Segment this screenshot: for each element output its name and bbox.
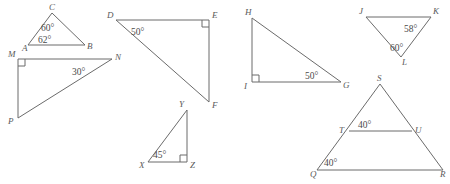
right-angle-mark-m — [18, 59, 25, 66]
vertex-label-g: G — [343, 80, 350, 90]
figure-triangle-hig: H I G 50° — [243, 7, 350, 91]
vertex-label-q: Q — [310, 169, 317, 179]
figure-triangle-jkl: J K L 58° 60° — [359, 6, 440, 67]
figure-triangle-qrs: S T U Q R 40° 40° — [310, 73, 446, 179]
vertex-label-m: M — [7, 49, 16, 59]
vertex-label-i: I — [243, 81, 248, 91]
angle-label-jkl-l: 60° — [390, 43, 404, 53]
vertex-label-b: B — [87, 41, 93, 51]
figures-canvas: A B C 60° 62° M N P 30° D E F 50° — [0, 0, 450, 184]
vertex-label-n: N — [114, 52, 122, 62]
vertex-label-s: S — [377, 73, 382, 83]
triangle-hig-outline — [252, 18, 341, 82]
angle-label-mnp-n: 30° — [72, 67, 86, 77]
vertex-label-d: D — [106, 10, 114, 20]
figure-triangle-xyz: X Y Z 45° — [138, 99, 196, 170]
vertex-label-y: Y — [179, 99, 185, 109]
triangle-abc-outline — [28, 13, 85, 45]
vertex-label-r: R — [439, 169, 446, 179]
vertex-label-p: P — [7, 116, 14, 126]
angle-label-hig-g: 50° — [305, 71, 319, 81]
figure-triangle-abc: A B C 60° 62° — [21, 2, 93, 53]
right-angle-mark-z — [180, 155, 187, 162]
angle-label-xyz-x: 45° — [153, 150, 167, 160]
figure-triangle-mnp: M N P 30° — [7, 49, 122, 126]
vertex-label-c: C — [49, 2, 56, 12]
triangle-mnp-outline — [18, 59, 112, 118]
vertex-label-e: E — [211, 10, 218, 20]
geometry-figures-diagram: A B C 60° 62° M N P 30° D E F 50° — [0, 0, 450, 184]
angle-label-qrs-t: 40° — [358, 120, 372, 130]
vertex-label-x: X — [138, 160, 145, 170]
figure-triangle-def: D E F 50° — [106, 10, 218, 110]
vertex-label-l: L — [401, 57, 407, 67]
vertex-label-a: A — [21, 43, 28, 53]
vertex-label-z: Z — [190, 160, 196, 170]
vertex-label-k: K — [432, 6, 440, 16]
vertex-label-j: J — [359, 6, 364, 16]
angle-label-abc-c: 60° — [41, 23, 55, 33]
angle-label-qrs-q: 40° — [324, 158, 338, 168]
angle-label-def-d: 50° — [131, 27, 145, 37]
vertex-label-u: U — [415, 125, 422, 135]
right-angle-mark-e — [202, 20, 209, 27]
angle-label-abc-a: 62° — [38, 35, 52, 45]
angle-label-jkl-k: 58° — [404, 24, 418, 34]
vertex-label-h: H — [244, 7, 252, 17]
triangle-def-outline — [116, 20, 209, 102]
right-angle-mark-i — [252, 75, 259, 82]
vertex-label-f: F — [211, 100, 218, 110]
